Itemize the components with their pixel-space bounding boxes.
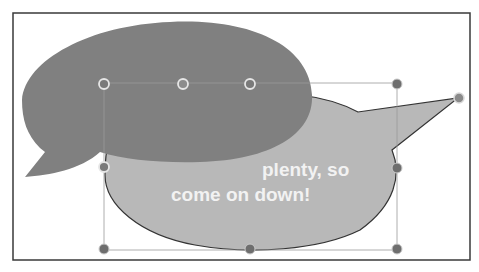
handle-middle-left[interactable] [99,162,109,172]
callout-text-line-2: come on down! [171,183,310,206]
handle-back-bottom-left[interactable] [99,244,109,254]
handle-top-middle[interactable] [178,79,188,89]
slide-canvas[interactable]: plenty, so come on down! [0,0,479,272]
handle-back-bottom-right[interactable] [392,244,402,254]
handle-top-left[interactable] [99,79,109,89]
callout-text-line-1: plenty, so [262,158,349,181]
tail-adjust-handle[interactable] [454,93,464,103]
handle-back-top-right[interactable] [392,79,402,89]
handle-top-right[interactable] [245,79,255,89]
handle-back-middle-right[interactable] [392,163,402,173]
handle-back-bottom-middle[interactable] [245,244,255,254]
